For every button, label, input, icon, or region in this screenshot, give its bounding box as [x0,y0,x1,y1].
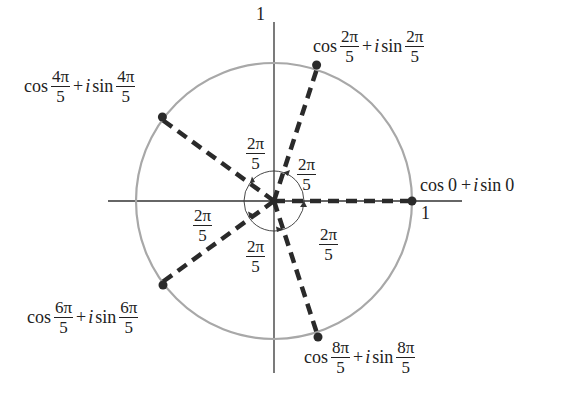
label-root-2: cos 4π5 + i sin 4π5 [24,68,138,105]
angle-label-4: 2π5 [243,238,268,275]
angle-label-2: 2π5 [243,135,268,172]
x-axis-tick-1: 1 [421,203,430,224]
label-root-4: cos 8π5 + i sin 8π5 [304,339,418,376]
label-root-3: cos 6π5 + i sin 6π5 [27,299,141,336]
angle-label-5: 2π5 [316,226,341,263]
label-root-0: cos 0 + i sin 0 [420,175,514,196]
angle-label-1: 2π5 [294,156,319,193]
y-axis-tick-1: 1 [256,4,265,25]
label-root-1: cos 2π5 + i sin 2π5 [313,28,427,65]
angle-label-3: 2π5 [190,207,215,244]
